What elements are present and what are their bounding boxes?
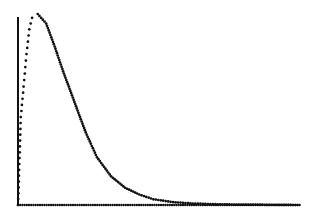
density-chart xyxy=(0,0,319,214)
density-curve-dots xyxy=(17,13,299,207)
